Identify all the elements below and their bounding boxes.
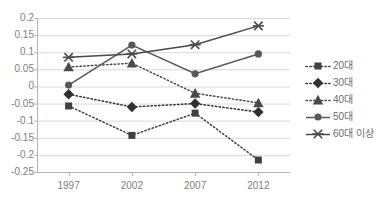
chart-legend: 20대30대40대50대60대 이상 [305, 57, 376, 142]
legend-label: 30대 [331, 77, 353, 88]
circle-marker-icon [305, 109, 331, 125]
x-tick-label: 1997 [44, 181, 94, 191]
x-tick-label: 2012 [233, 181, 283, 191]
square-marker-icon [305, 58, 331, 74]
legend-label: 40대 [331, 94, 353, 105]
legend-item-5[interactable]: 60대 이상 [305, 125, 376, 142]
legend-label: 20대 [331, 60, 353, 71]
legend-item-1[interactable]: 20대 [305, 57, 376, 74]
x-marker-icon [305, 126, 331, 142]
legend-label: 50대 [331, 111, 353, 122]
data-point-marker [315, 62, 322, 69]
data-point-marker [313, 77, 323, 87]
line-chart: 0.20.150.10.050-0.05-0.1-0.15-0.2-0.25 1… [0, 0, 376, 199]
legend-label: 60대 이상 [331, 128, 374, 139]
legend-item-3[interactable]: 40대 [305, 91, 376, 108]
triangle-marker-icon [305, 92, 331, 108]
x-tick-label: 2002 [107, 181, 157, 191]
legend-item-2[interactable]: 30대 [305, 74, 376, 91]
legend-item-4[interactable]: 50대 [305, 108, 376, 125]
data-point-marker [312, 129, 323, 137]
data-point-marker [314, 113, 321, 120]
data-point-marker [313, 94, 323, 104]
diamond-marker-icon [305, 75, 331, 91]
x-tick-label: 2007 [170, 181, 220, 191]
